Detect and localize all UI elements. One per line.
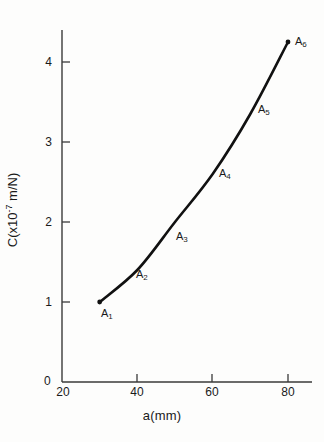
point-label-A2: A2 (136, 269, 148, 280)
x-tick-label-40: 40 (124, 386, 150, 398)
x-tick-label-20: 20 (50, 386, 76, 398)
y-tick-label-3: 3 (34, 136, 52, 148)
x-tick-label-80: 80 (275, 386, 301, 398)
y-axis-title-prefix: C(x10 (5, 213, 20, 248)
y-axis-title: C(x10-7 m/N) (5, 150, 20, 270)
y-axis-title-suffix: m/N) (5, 173, 20, 205)
point-label-A1-sub: 1 (108, 312, 112, 321)
y-tick-label-2: 2 (34, 216, 52, 228)
y-tick-label-4: 4 (34, 56, 52, 68)
data-line-series (100, 42, 288, 302)
point-label-A3: A3 (176, 231, 188, 242)
point-label-A4-sub: 4 (226, 172, 230, 181)
x-tick-label-60: 60 (199, 386, 225, 398)
x-axis-title: a(mm) (0, 408, 324, 423)
point-label-A6-sub: 6 (302, 40, 306, 49)
point-label-A4: A4 (219, 168, 231, 179)
chart-figure: 4 3 2 1 0 20 40 60 80 a(mm) C(x10-7 m/N)… (0, 0, 324, 442)
data-point-A6 (286, 40, 291, 45)
point-label-A5-sub: 5 (265, 108, 269, 117)
y-axis-title-exponent: -7 (4, 205, 14, 213)
point-label-A5: A5 (258, 104, 270, 115)
point-label-A6: A6 (295, 36, 307, 47)
point-label-A3-sub: 3 (183, 235, 187, 244)
data-point-A1 (97, 300, 102, 305)
point-label-A2-sub: 2 (143, 273, 147, 282)
point-label-A1: A1 (101, 308, 113, 319)
y-tick-label-1: 1 (34, 296, 52, 308)
